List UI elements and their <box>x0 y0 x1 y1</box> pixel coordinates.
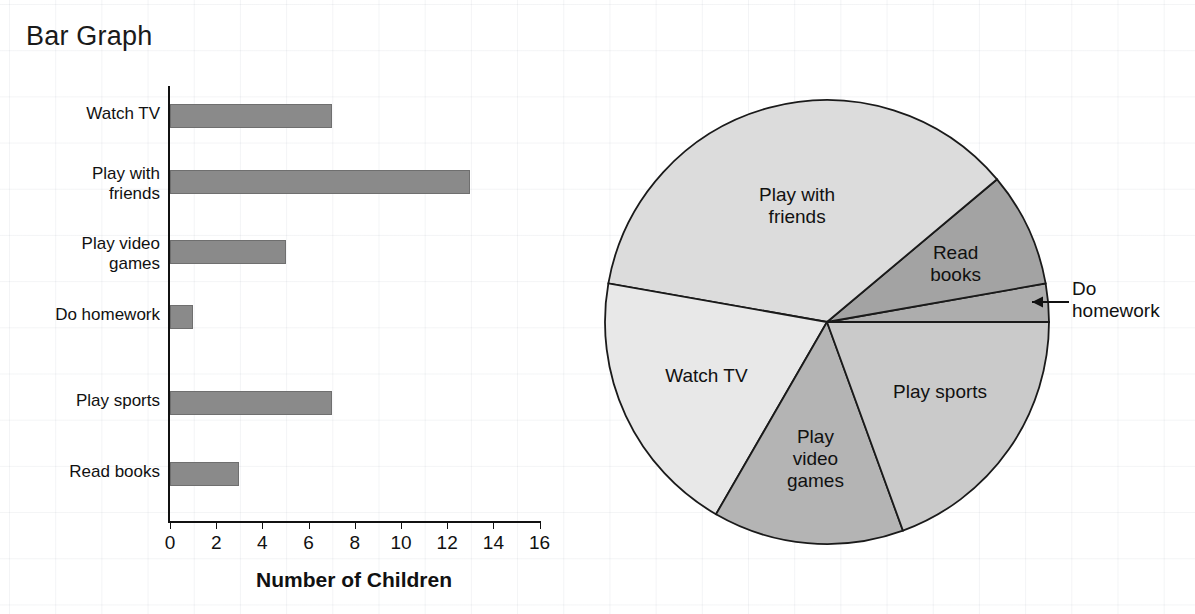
x-axis-tick-label: 2 <box>196 532 236 554</box>
x-axis-tick <box>447 521 448 529</box>
x-axis-tick-label: 6 <box>289 532 329 554</box>
x-axis-tick-label: 16 <box>520 532 560 554</box>
bar <box>170 170 470 194</box>
x-axis-tick-label: 8 <box>335 532 375 554</box>
x-axis-tick <box>493 521 494 529</box>
bar-category-label: Read books <box>8 462 160 482</box>
circle-graph-panel: Circle Graph Read booksPlay with friends… <box>580 0 1195 614</box>
x-axis-tick-label: 10 <box>381 532 421 554</box>
bar <box>170 305 193 329</box>
bar <box>170 462 239 486</box>
bar-category-label: Watch TV <box>8 104 160 124</box>
bar-category-label: Do homework <box>8 305 160 325</box>
bar-graph-panel: Bar Graph Watch TVPlay with friendsPlay … <box>0 0 580 614</box>
do-homework-callout-label: Do homework <box>1072 278 1160 322</box>
bar <box>170 104 332 128</box>
bar <box>170 391 332 415</box>
x-axis-tick-label: 12 <box>427 532 467 554</box>
x-axis-tick <box>216 521 217 529</box>
pie-slices-group <box>605 100 1049 544</box>
x-axis-tick <box>355 521 356 529</box>
x-axis-tick <box>170 521 171 529</box>
bar-graph-x-axis-title: Number of Children <box>168 568 540 592</box>
x-axis-tick-label: 14 <box>473 532 513 554</box>
x-axis-tick-label: 0 <box>150 532 190 554</box>
bar-category-label: Play sports <box>8 391 160 411</box>
x-axis-tick <box>540 521 541 529</box>
bar-graph-title: Bar Graph <box>26 21 152 52</box>
x-axis-tick <box>401 521 402 529</box>
worksheet-page: Bar Graph Watch TVPlay with friendsPlay … <box>0 0 1195 614</box>
x-axis-tick <box>262 521 263 529</box>
bar <box>170 240 286 264</box>
x-axis-tick-label: 4 <box>242 532 282 554</box>
bar-category-label: Play with friends <box>8 164 160 204</box>
bar-category-label: Play video games <box>8 234 160 274</box>
x-axis-tick <box>309 521 310 529</box>
